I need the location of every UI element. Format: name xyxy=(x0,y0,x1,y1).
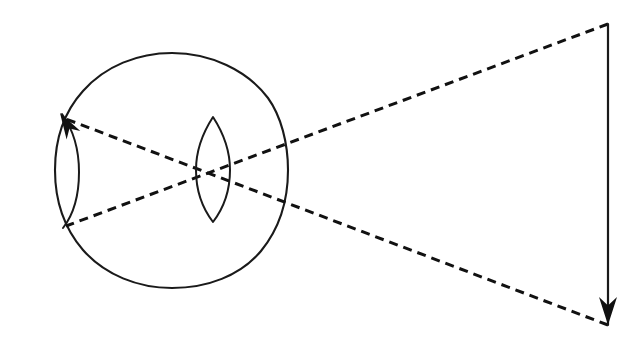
eye-optics-figure xyxy=(0,0,638,350)
figure-background xyxy=(0,0,638,350)
figure-canvas xyxy=(0,0,638,350)
